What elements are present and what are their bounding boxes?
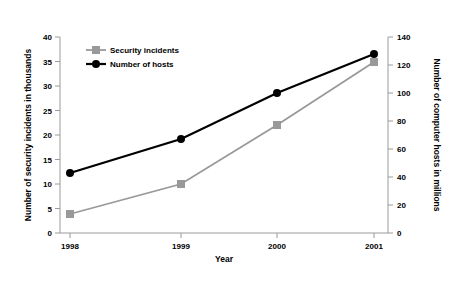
y-right-label-20: 20 (397, 201, 406, 210)
y-left-label-40: 40 (43, 33, 52, 42)
incidents-point-1998 (66, 210, 74, 218)
y-right-label-100: 100 (397, 89, 411, 98)
y-right-label-140: 140 (397, 33, 411, 42)
incidents-point-2001 (370, 58, 378, 66)
legend-label-incidents: Security incidents (110, 46, 179, 55)
y-right-label-0: 0 (397, 229, 402, 238)
x-label-1998: 1998 (61, 242, 79, 251)
x-label-1999: 1999 (172, 242, 190, 251)
line-chart: 40 35 30 25 20 15 10 5 0 Number of secur… (0, 0, 453, 282)
y-left-label-5: 5 (48, 205, 53, 214)
hosts-point-2000 (273, 89, 281, 97)
chart-container: 40 35 30 25 20 15 10 5 0 Number of secur… (0, 0, 453, 282)
y-right-label-80: 80 (397, 117, 406, 126)
y-left-label-25: 25 (43, 107, 52, 116)
y-axis-left-title: Number of security incidents in thousand… (23, 49, 33, 222)
y-axis-right-title: Number of computer hosts in millions (432, 58, 442, 211)
x-label-2000: 2000 (268, 242, 286, 251)
legend-marker-circle-icon (92, 60, 100, 68)
chart-background (0, 0, 453, 282)
y-left-label-20: 20 (43, 131, 52, 140)
hosts-point-1999 (177, 135, 185, 143)
y-right-label-40: 40 (397, 173, 406, 182)
x-axis-title: Year (215, 254, 234, 264)
hosts-point-2001 (370, 50, 378, 58)
legend-label-hosts: Number of hosts (110, 60, 174, 69)
incidents-point-2000 (273, 121, 281, 129)
x-label-2001: 2001 (365, 242, 383, 251)
y-left-label-10: 10 (43, 180, 52, 189)
incidents-point-1999 (177, 180, 185, 188)
y-left-label-35: 35 (43, 58, 52, 67)
y-left-label-15: 15 (43, 156, 52, 165)
y-left-label-0: 0 (48, 229, 53, 238)
y-right-label-60: 60 (397, 145, 406, 154)
legend-marker-square-icon (92, 46, 100, 54)
y-left-label-30: 30 (43, 82, 52, 91)
y-right-label-120: 120 (397, 61, 411, 70)
hosts-point-1998 (66, 169, 74, 177)
